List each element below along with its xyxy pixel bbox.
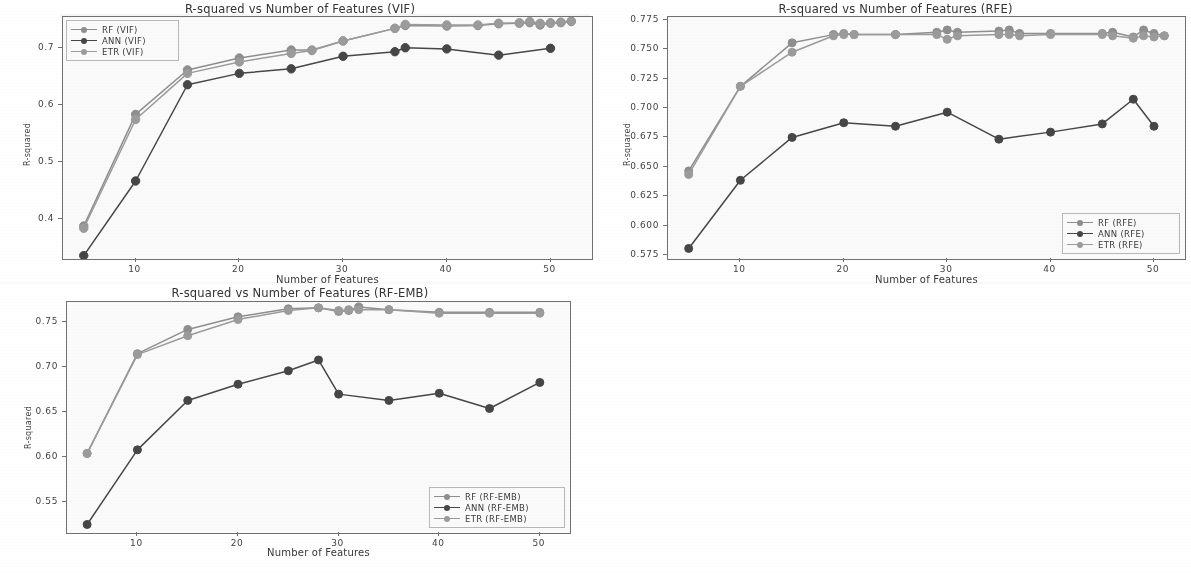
legend-line-marker-icon bbox=[71, 24, 97, 35]
x-tick-label: 50 bbox=[532, 538, 545, 548]
x-tick-mark bbox=[342, 258, 343, 262]
x-tick-label: 10 bbox=[130, 538, 143, 548]
legend-item[interactable]: ANN (RFE) bbox=[1067, 228, 1173, 239]
y-tick-label: 0.600 bbox=[611, 220, 659, 230]
data-point bbox=[435, 389, 443, 397]
data-point bbox=[131, 115, 139, 123]
data-point bbox=[385, 306, 393, 314]
y-tick-label: 0.7 bbox=[6, 42, 54, 52]
data-point bbox=[736, 176, 744, 184]
x-tick-label: 40 bbox=[1043, 264, 1056, 274]
data-point bbox=[1160, 32, 1168, 40]
legend-label: RF (VIF) bbox=[102, 25, 138, 35]
legend-item[interactable]: RF (RFE) bbox=[1067, 217, 1173, 228]
legend-line-marker-icon bbox=[434, 491, 460, 502]
data-point bbox=[1150, 33, 1158, 41]
y-tick-mark bbox=[663, 19, 667, 20]
data-point bbox=[788, 48, 796, 56]
data-point bbox=[943, 108, 951, 116]
data-point bbox=[494, 19, 502, 27]
y-tick-mark bbox=[663, 107, 667, 108]
chart-title-vif: R-squared vs Number of Features (VIF) bbox=[0, 2, 600, 16]
y-tick-mark bbox=[62, 411, 66, 412]
y-tick-label: 0.5 bbox=[6, 156, 54, 166]
y-tick-mark bbox=[663, 166, 667, 167]
legend-item[interactable]: ANN (RF-EMB) bbox=[434, 502, 558, 513]
series-etr-rfe bbox=[685, 31, 1169, 179]
data-point bbox=[385, 396, 393, 404]
data-point bbox=[133, 446, 141, 454]
data-point bbox=[840, 31, 848, 39]
data-point bbox=[287, 65, 295, 73]
data-point bbox=[1098, 120, 1106, 128]
x-tick-mark bbox=[338, 532, 339, 536]
x-tick-label: 40 bbox=[439, 264, 452, 274]
y-tick-label: 0.775 bbox=[611, 14, 659, 24]
data-point bbox=[526, 17, 534, 25]
data-point bbox=[83, 449, 91, 457]
chart-title-rfe: R-squared vs Number of Features (RFE) bbox=[600, 2, 1191, 16]
x-tick-label: 10 bbox=[128, 264, 141, 274]
y-tick-mark bbox=[58, 161, 62, 162]
data-point bbox=[829, 32, 837, 40]
y-tick-label: 0.6 bbox=[6, 99, 54, 109]
legend-item[interactable]: ETR (RF-EMB) bbox=[434, 513, 558, 524]
legend-item[interactable]: RF (RF-EMB) bbox=[434, 491, 558, 502]
legend-item[interactable]: ETR (VIF) bbox=[71, 46, 172, 57]
data-point bbox=[486, 309, 494, 317]
y-tick-mark bbox=[663, 136, 667, 137]
legend-item[interactable]: ETR (RFE) bbox=[1067, 239, 1173, 250]
data-point bbox=[335, 307, 343, 315]
legend-line-marker-icon bbox=[71, 35, 97, 46]
data-point bbox=[80, 224, 88, 232]
data-point bbox=[494, 51, 502, 59]
legend-item[interactable]: RF (VIF) bbox=[71, 24, 172, 35]
legend-rfe: RF (RFE)ANN (RFE)ETR (RFE) bbox=[1062, 213, 1180, 254]
data-point bbox=[443, 45, 451, 53]
legend-label: ETR (RFE) bbox=[1098, 240, 1143, 250]
x-tick-mark bbox=[550, 258, 551, 262]
data-point bbox=[943, 26, 951, 34]
data-point bbox=[943, 35, 951, 43]
x-tick-mark bbox=[739, 258, 740, 262]
data-point bbox=[933, 31, 941, 39]
data-point bbox=[443, 21, 451, 29]
y-tick-mark bbox=[663, 225, 667, 226]
x-tick-mark bbox=[843, 258, 844, 262]
data-point bbox=[546, 18, 554, 26]
data-point bbox=[287, 49, 295, 57]
legend-line-marker-icon bbox=[434, 513, 460, 524]
data-point bbox=[1005, 31, 1013, 39]
data-point bbox=[345, 306, 353, 314]
data-point bbox=[131, 177, 139, 185]
series-line bbox=[84, 48, 551, 256]
x-tick-label: 30 bbox=[940, 264, 953, 274]
data-point bbox=[1047, 128, 1055, 136]
data-point bbox=[557, 18, 565, 26]
legend-item[interactable]: ANN (VIF) bbox=[71, 35, 172, 46]
data-point bbox=[536, 378, 544, 386]
x-tick-mark bbox=[136, 532, 137, 536]
x-tick-mark bbox=[446, 258, 447, 262]
data-point bbox=[515, 18, 523, 26]
y-tick-label: 0.625 bbox=[611, 190, 659, 200]
data-point bbox=[184, 332, 192, 340]
y-tick-mark bbox=[62, 456, 66, 457]
legend-label: RF (RF-EMB) bbox=[465, 492, 521, 502]
data-point bbox=[1047, 31, 1055, 39]
data-point bbox=[995, 31, 1003, 39]
x-axis-label-rfemb: Number of Features bbox=[66, 547, 571, 558]
legend-line-marker-icon bbox=[1067, 239, 1093, 250]
x-tick-label: 30 bbox=[331, 538, 344, 548]
data-point bbox=[891, 122, 899, 130]
x-tick-label: 40 bbox=[432, 538, 445, 548]
y-tick-label: 0.650 bbox=[611, 161, 659, 171]
data-point bbox=[80, 251, 88, 259]
data-point bbox=[234, 316, 242, 324]
x-tick-mark bbox=[438, 532, 439, 536]
y-tick-label: 0.575 bbox=[611, 249, 659, 259]
data-point bbox=[685, 170, 693, 178]
data-point bbox=[788, 39, 796, 47]
data-point bbox=[391, 24, 399, 32]
y-tick-label: 0.725 bbox=[611, 73, 659, 83]
